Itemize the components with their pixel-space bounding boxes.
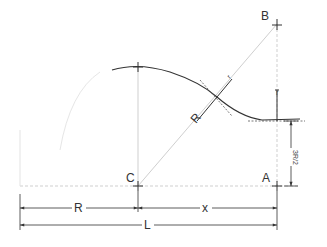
label-point-c: C: [126, 171, 135, 185]
diagonal-c-to-b: [138, 24, 277, 186]
label-point-a: A: [262, 171, 270, 185]
label-dim-l: L: [144, 218, 151, 232]
crosshair-a: [272, 181, 282, 191]
label-point-b: B: [261, 9, 269, 23]
reverse-curve-diagram: B C A R r r 3R/2 R x L: [0, 0, 327, 247]
s-curve: [112, 66, 300, 120]
tangent-lines: [200, 80, 305, 121]
label-dim-x: x: [202, 201, 208, 215]
faint-arc-left: [60, 72, 100, 150]
radius-line-R: [197, 79, 232, 121]
construction-lines: [20, 24, 300, 186]
crosshair-top-left: [133, 62, 143, 72]
label-dim-r: R: [74, 201, 83, 215]
label-height-3r2: 3R/2: [292, 150, 299, 165]
